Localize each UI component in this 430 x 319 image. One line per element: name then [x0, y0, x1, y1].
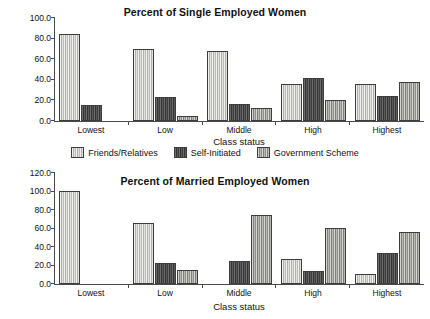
bar-self-initiated-middle-top: [229, 104, 250, 122]
bar-slot-government-scheme-highest-bottom: [399, 173, 420, 284]
bar-slot-self-initiated-highest-bottom: [377, 173, 398, 284]
legend-label-self-initiated: Self-Initiated: [191, 148, 241, 158]
bar-self-initiated-low-bottom: [155, 263, 176, 284]
legend-item-self-initiated: Self-Initiated: [174, 147, 241, 158]
legend-swatch-friends-relatives: [71, 147, 84, 158]
legend-label-government-scheme: Government Scheme: [274, 148, 359, 158]
chart-title-top: Percent of Single Employed Women: [0, 6, 430, 18]
bar-group-low-bottom: [129, 173, 203, 284]
y-axis-tick-label-bottom: 80.0: [34, 206, 51, 215]
x-axis-label-middle-bottom: Middle: [202, 288, 276, 298]
bar-slot-government-scheme-middle-bottom: [251, 173, 272, 284]
bar-friends-relatives-high-bottom: [281, 259, 302, 284]
y-axis-tick-mark-bottom: [51, 209, 55, 210]
bar-group-lowest-top: [55, 18, 129, 121]
bar-self-initiated-middle-bottom: [229, 261, 250, 284]
x-axis-label-middle-top: Middle: [202, 125, 276, 135]
bar-government-scheme-high-bottom: [325, 228, 346, 284]
y-axis-tick-label-bottom: 60.0: [34, 224, 51, 233]
y-axis-tick-mark-top: [51, 38, 55, 39]
bar-slot-friends-relatives-middle-top: [207, 18, 228, 121]
bar-slot-government-scheme-low-bottom: [177, 173, 198, 284]
y-axis-tick-label-bottom: 120.0: [30, 169, 51, 178]
y-axis-tick-mark-bottom: [51, 191, 55, 192]
bar-friends-relatives-high-top: [281, 84, 302, 121]
y-axis-tick-mark-bottom: [51, 172, 55, 173]
bar-self-initiated-lowest-top: [81, 105, 102, 121]
y-axis-tick-label-top: 20.0: [34, 96, 51, 105]
x-axis-label-highest-bottom: Highest: [350, 288, 424, 298]
y-axis-tick-label-top: 80.0: [34, 34, 51, 43]
bar-self-initiated-high-top: [303, 78, 324, 121]
bar-self-initiated-highest-bottom: [377, 253, 398, 284]
bar-slot-friends-relatives-high-bottom: [281, 173, 302, 284]
y-axis-tick-mark-top: [51, 99, 55, 100]
bar-slot-friends-relatives-low-top: [133, 18, 154, 121]
legend-label-friends-relatives: Friends/Relatives: [88, 148, 158, 158]
legend-item-government-scheme: Government Scheme: [257, 147, 359, 158]
bar-self-initiated-highest-top: [377, 96, 398, 121]
legend-item-friends-relatives: Friends/Relatives: [71, 147, 158, 158]
bar-slot-self-initiated-lowest-top: [81, 18, 102, 121]
plot-area-bottom: 0.020.040.060.080.0100.0120.0: [54, 173, 424, 285]
bar-slot-self-initiated-high-top: [303, 18, 324, 121]
chart-single-employed-women: Percent of Single Employed Women 0.020.0…: [0, 4, 430, 144]
y-axis-tick-mark-top: [51, 58, 55, 59]
bar-slot-government-scheme-middle-top: [251, 18, 272, 121]
bar-friends-relatives-middle-top: [207, 51, 228, 121]
x-axis-label-lowest-top: Lowest: [54, 125, 128, 135]
bar-slot-government-scheme-low-top: [177, 18, 198, 121]
bar-group-highest-bottom: [350, 173, 424, 284]
bar-government-scheme-low-bottom: [177, 270, 198, 284]
y-axis-tick-mark-bottom: [51, 265, 55, 266]
bar-slot-friends-relatives-lowest-top: [59, 18, 80, 121]
x-axis-label-highest-top: Highest: [350, 125, 424, 135]
bar-slot-friends-relatives-lowest-bottom: [59, 173, 80, 284]
bar-group-high-bottom: [276, 173, 350, 284]
bar-slot-self-initiated-middle-bottom: [229, 173, 250, 284]
x-axis-title-bottom: Class status: [54, 301, 424, 312]
x-axis-title-top: Class status: [54, 136, 424, 147]
bar-slot-friends-relatives-highest-bottom: [355, 173, 376, 284]
chart-legend: Friends/Relatives Self-Initiated Governm…: [0, 147, 430, 158]
bar-slot-self-initiated-high-bottom: [303, 173, 324, 284]
bar-slot-self-initiated-lowest-bottom: [81, 173, 102, 284]
bar-group-low-top: [129, 18, 203, 121]
bar-friends-relatives-lowest-bottom: [59, 191, 80, 284]
bar-government-scheme-middle-top: [251, 108, 272, 121]
bar-government-scheme-highest-bottom: [399, 232, 420, 284]
bar-government-scheme-highest-top: [399, 82, 420, 121]
y-axis-tick-label-top: 0.0: [39, 117, 51, 126]
y-axis-tick-label-bottom: 100.0: [30, 187, 51, 196]
y-axis-tick-label-top: 40.0: [34, 76, 51, 85]
bar-government-scheme-low-top: [177, 116, 198, 121]
bar-slot-government-scheme-high-top: [325, 18, 346, 121]
y-axis-tick-mark-bottom: [51, 283, 55, 284]
legend-swatch-self-initiated: [174, 147, 187, 158]
x-axis-label-high-top: High: [276, 125, 350, 135]
chart-married-employed-women: Percent of Married Employed Women 0.020.…: [0, 170, 430, 319]
y-axis-tick-label-bottom: 20.0: [34, 261, 51, 270]
x-axis-label-low-top: Low: [128, 125, 202, 135]
bar-self-initiated-low-top: [155, 97, 176, 121]
bar-friends-relatives-lowest-top: [59, 34, 80, 121]
y-axis-tick-mark-top: [51, 79, 55, 80]
bar-group-middle-bottom: [203, 173, 277, 284]
x-axis-tick-labels-top: LowestLowMiddleHighHighest: [54, 125, 424, 135]
bar-slot-friends-relatives-middle-bottom: [207, 173, 228, 284]
bar-friends-relatives-highest-bottom: [355, 274, 376, 284]
bar-government-scheme-middle-bottom: [251, 215, 272, 284]
bar-groups-top: [55, 18, 424, 121]
legend-swatch-government-scheme: [257, 147, 270, 158]
y-axis-tick-label-top: 100.0: [30, 14, 51, 23]
bar-slot-self-initiated-low-top: [155, 18, 176, 121]
bar-friends-relatives-low-bottom: [133, 223, 154, 284]
y-axis-tick-label-top: 60.0: [34, 55, 51, 64]
bar-government-scheme-high-top: [325, 100, 346, 121]
bar-friends-relatives-low-top: [133, 49, 154, 121]
x-axis-label-high-bottom: High: [276, 288, 350, 298]
bar-slot-government-scheme-lowest-bottom: [103, 173, 124, 284]
y-axis-tick-mark-bottom: [51, 228, 55, 229]
bar-groups-bottom: [55, 173, 424, 284]
bar-friends-relatives-highest-top: [355, 84, 376, 121]
